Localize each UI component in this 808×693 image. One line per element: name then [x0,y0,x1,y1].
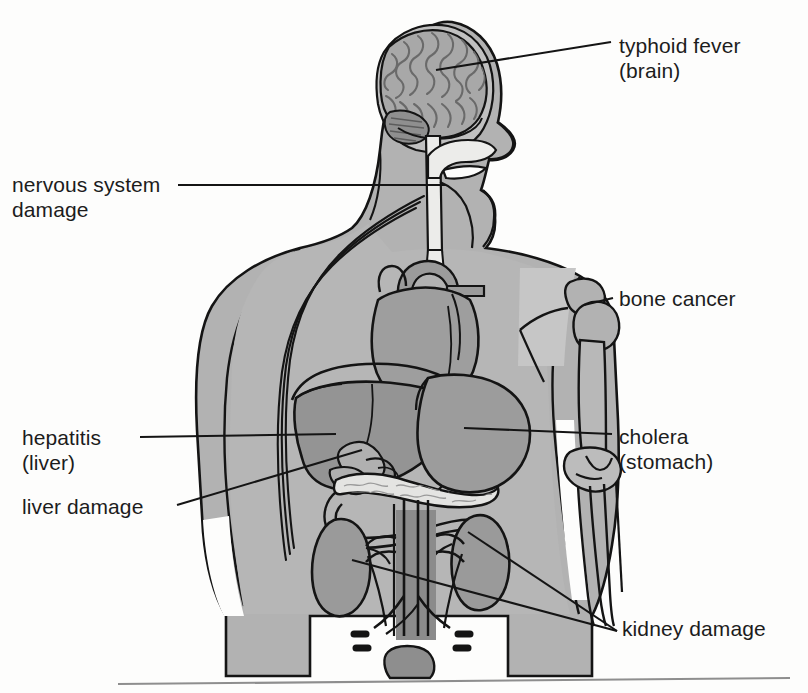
label-cholera-stomach: cholera (stomach) [619,424,713,474]
label-typhoid-fever-brain: typhoid fever (brain) [619,33,741,83]
label-hepatitis-liver: hepatitis (liver) [22,425,101,475]
label-nervous-system-damage: nervous system damage [12,172,160,222]
human-body-anatomy-diagram [0,0,808,693]
label-bone-cancer: bone cancer [619,286,736,311]
brain [380,30,486,144]
ulna-bone-edge [616,482,622,592]
label-liver-damage: liver damage [22,494,143,519]
bottom-rule [118,678,790,684]
humerus-shaft [579,340,606,454]
label-kidney-damage: kidney damage [622,616,766,641]
diagram-page: typhoid fever (brain) nervous system dam… [0,0,808,693]
kidney-left [312,519,370,616]
bladder [384,646,434,678]
